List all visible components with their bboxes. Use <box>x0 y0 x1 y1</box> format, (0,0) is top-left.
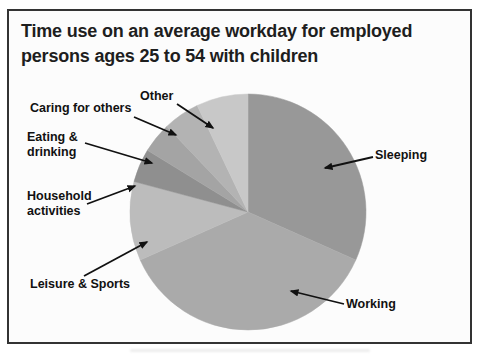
label-arrow-eating-drinking <box>85 143 152 163</box>
slice-label-household-activities: Household activities <box>27 189 107 219</box>
slice-label-working: Working <box>346 297 396 312</box>
label-arrow-leisure-sports <box>84 242 147 276</box>
slice-label-other: Other <box>140 89 173 104</box>
pie-chart <box>0 0 481 356</box>
slice-label-sleeping: Sleeping <box>375 148 427 163</box>
pie-slices <box>130 94 366 330</box>
slice-label-caring-for-others: Caring for others <box>30 101 131 116</box>
scan-artifact <box>130 349 370 352</box>
slice-label-eating-drinking: Eating & drinking <box>27 130 89 160</box>
slice-label-leisure-sports: Leisure & Sports <box>30 277 130 292</box>
